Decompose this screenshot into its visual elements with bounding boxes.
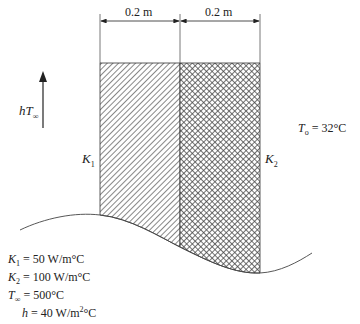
dimension-label-left: 0.2 m (125, 6, 152, 18)
layer-k2-label: K2 (265, 152, 278, 165)
layer-k1-region (100, 63, 180, 247)
layer-k1-label-main: K (82, 151, 91, 166)
property-symbol: K (8, 252, 16, 266)
layer-k1-label-sub: 1 (91, 160, 95, 169)
property-value: °C (84, 306, 97, 320)
ambient-temperature-label: To = 32°C (298, 122, 346, 134)
property-k1: K1 = 50 W/m°C (8, 250, 96, 268)
heat-flux-label-main: hT (19, 103, 33, 118)
property-t-infinity: T∞ = 500°C (8, 286, 96, 304)
property-symbol: T (8, 288, 15, 302)
layer-k2-label-main: K (265, 151, 274, 166)
property-value: = 100 W/m°C (20, 270, 90, 284)
property-value: = 500°C (20, 288, 64, 302)
heat-flux-label: hT∞ (19, 104, 38, 117)
dimension-label-right: 0.2 m (205, 6, 232, 18)
layer-k1-label: K1 (82, 152, 95, 165)
heat-flux-arrow (39, 71, 47, 128)
layer-k2-label-sub: 2 (274, 160, 278, 169)
property-list: K1 = 50 W/m°C K2 = 100 W/m°C T∞ = 500°C … (8, 250, 96, 322)
composite-slab (100, 63, 260, 273)
property-symbol: K (8, 270, 16, 284)
property-value-before-sup: = 40 W/m (28, 306, 80, 320)
ambient-temperature-value: = 32°C (309, 121, 347, 135)
property-value: = 50 W/m°C (20, 252, 84, 266)
layer-k2-region (180, 63, 260, 273)
ambient-temperature-symbol: T (298, 121, 305, 135)
property-h: h = 40 W/m2°C (8, 304, 96, 322)
heat-flux-label-sub: ∞ (33, 112, 39, 121)
property-k2: K2 = 100 W/m°C (8, 268, 96, 286)
